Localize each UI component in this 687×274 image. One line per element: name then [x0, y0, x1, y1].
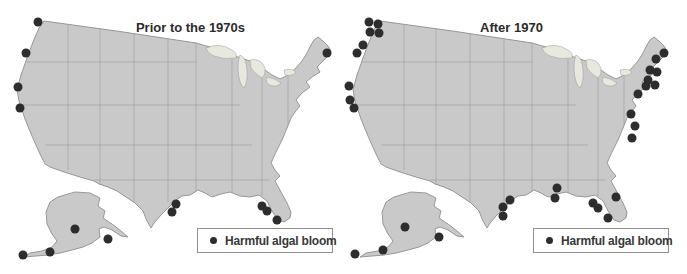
- bloom-dot: [499, 212, 508, 221]
- bloom-dot: [660, 49, 669, 58]
- map-title-after: After 1970: [340, 20, 683, 35]
- bloom-dot: [604, 214, 613, 223]
- bloom-dot: [631, 122, 640, 131]
- bloom-dot: [345, 82, 354, 91]
- bloom-dot: [104, 235, 113, 244]
- legend-label: Harmful algal bloom: [561, 234, 673, 248]
- bloom-dot: [651, 81, 660, 90]
- bloom-dot: [22, 49, 31, 58]
- bloom-dot: [551, 194, 560, 203]
- bloom-dot: [273, 216, 282, 225]
- algal-bloom-figure: Prior to the 1970s Harmful algal bloom A…: [0, 0, 687, 274]
- bloom-dot: [16, 104, 25, 113]
- bloom-dot: [506, 196, 515, 205]
- bloom-dot: [168, 208, 177, 217]
- bloom-dot: [323, 49, 332, 58]
- bloom-dot: [652, 55, 661, 64]
- bloom-dot: [263, 207, 272, 216]
- bloom-dot: [628, 134, 637, 143]
- bloom-dot-icon: [210, 237, 217, 244]
- bloom-dot: [19, 251, 28, 260]
- bloom-dot: [365, 18, 374, 27]
- legend-box-prior: Harmful algal bloom: [197, 228, 333, 253]
- bloom-dot: [374, 20, 383, 29]
- bloom-dot: [359, 41, 368, 50]
- legend-label: Harmful algal bloom: [225, 234, 337, 248]
- bloom-dot: [499, 203, 508, 212]
- bloom-dot: [642, 82, 651, 91]
- bloom-dot: [34, 18, 43, 27]
- bloom-dot: [594, 204, 603, 213]
- bloom-dot: [71, 225, 80, 234]
- bloom-dot: [14, 83, 23, 92]
- bloom-dot: [627, 110, 636, 119]
- bloom-dot: [350, 104, 359, 113]
- bloom-dot: [401, 223, 410, 232]
- bloom-dot: [375, 29, 384, 38]
- bloom-dot: [435, 233, 444, 242]
- bloom-dot: [366, 28, 375, 37]
- legend-box-after: Harmful algal bloom: [533, 228, 669, 253]
- bloom-dot: [351, 250, 360, 259]
- bloom-dot: [353, 49, 362, 58]
- bloom-dot: [634, 90, 643, 99]
- bloom-dot: [46, 248, 55, 257]
- bloom-dot: [653, 68, 662, 77]
- map-panel-prior-1970s: Prior to the 1970s Harmful algal bloom: [0, 0, 343, 274]
- bloom-dot-icon: [546, 237, 553, 244]
- bloom-dot: [379, 246, 388, 255]
- bloom-dot: [553, 184, 562, 193]
- bloom-dot: [612, 193, 621, 202]
- map-title-prior: Prior to the 1970s: [19, 20, 362, 35]
